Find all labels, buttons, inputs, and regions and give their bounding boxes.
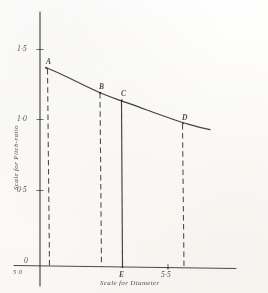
datapoint-label-D: D [182, 114, 187, 122]
y-tick-label-0: 0 [24, 257, 28, 265]
datapoint-A [46, 67, 48, 69]
datapoint-label-B: B [99, 83, 104, 91]
datapoint-C [121, 99, 123, 101]
datapoint-label-C: C [121, 90, 126, 98]
x-tick-label-5-5: 5·5 [161, 271, 171, 279]
datapoint-D [182, 122, 184, 124]
y-tick-label-1-0: 1·0 [17, 115, 27, 123]
x-axis-line [14, 266, 236, 269]
y-tick-label-1-5: 1·5 [17, 45, 27, 53]
chart-plot-area [0, 0, 268, 293]
datapoint-B [99, 92, 101, 94]
ordinate-C-to-E [122, 100, 123, 267]
ordinate-B [100, 93, 102, 267]
x-marker-label-E: E [119, 271, 124, 279]
origin-scale-label: 5 0 [13, 269, 22, 276]
marker-5-5 [167, 267, 169, 269]
ordinate-D [183, 124, 185, 268]
datapoint-label-A: A [46, 58, 51, 66]
marker-E [122, 266, 124, 268]
figure-root: 1·5 1·0 0·5 0 5 0 E 5·5 A B C D Scale fo… [0, 0, 268, 293]
x-axis-title: Scale for Diameter [100, 280, 160, 287]
y-axis-title: Scale for Pitch-ratio [13, 125, 20, 190]
ordinate-A [48, 69, 50, 266]
